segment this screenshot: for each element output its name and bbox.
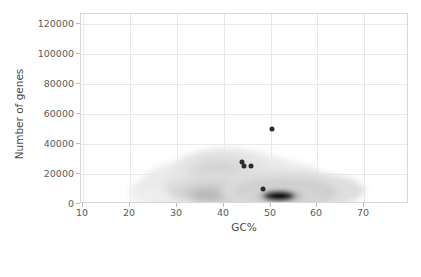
tick-mark-y — [76, 203, 80, 204]
scatter-point — [242, 163, 247, 168]
y-axis-title: Number of genes — [13, 49, 25, 179]
x-tick-label: 60 — [310, 207, 322, 218]
y-tick-label: 20000 — [44, 168, 74, 179]
y-tick-label: 100000 — [38, 48, 74, 59]
density-contour-layer — [81, 14, 407, 202]
tick-mark-y — [76, 113, 80, 114]
scatter-point — [260, 187, 265, 192]
plot-area — [80, 13, 408, 203]
x-tick-label: 10 — [76, 207, 88, 218]
y-tick-label: 60000 — [44, 108, 74, 119]
tick-mark-y — [76, 83, 80, 84]
scatter-point — [269, 127, 274, 132]
x-tick-label: 30 — [170, 207, 182, 218]
x-tick-label: 40 — [217, 207, 229, 218]
y-tick-label: 120000 — [38, 18, 74, 29]
x-tick-label: 50 — [264, 207, 276, 218]
x-tick-label: 70 — [357, 207, 369, 218]
y-tick-label: 80000 — [44, 78, 74, 89]
tick-mark-y — [76, 173, 80, 174]
scatter-point — [249, 164, 254, 169]
tick-mark-y — [76, 53, 80, 54]
x-tick-label: 20 — [123, 207, 135, 218]
tick-mark-y — [76, 143, 80, 144]
chart-figure: 10 20 30 40 50 60 70 120000 100000 80000… — [0, 0, 421, 277]
y-tick-label: 0 — [68, 198, 74, 209]
x-axis-title: GC% — [80, 221, 408, 233]
tick-mark-y — [76, 23, 80, 24]
y-tick-label: 40000 — [44, 138, 74, 149]
